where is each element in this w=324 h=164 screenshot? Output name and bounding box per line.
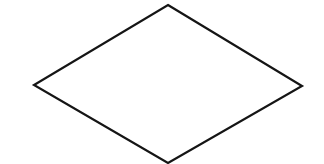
diagram-canvas xyxy=(0,0,324,164)
decision-diamond-shape xyxy=(34,5,302,163)
diagram-svg xyxy=(0,0,324,164)
